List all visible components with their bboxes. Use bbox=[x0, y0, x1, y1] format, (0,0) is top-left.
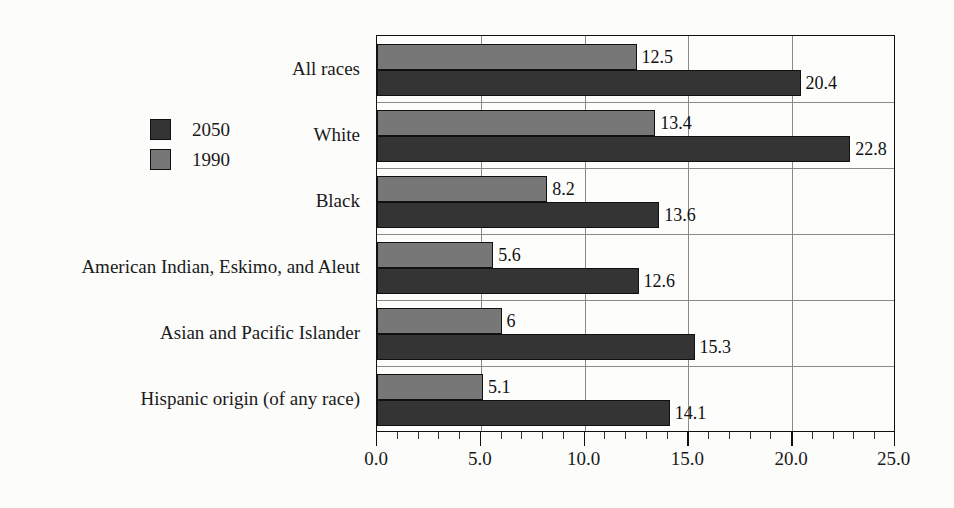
bar-2050-black[interactable] bbox=[377, 202, 659, 228]
bar-2050-white[interactable] bbox=[377, 136, 850, 162]
xtick-minor-17 bbox=[729, 432, 730, 439]
category-label-all-races: All races bbox=[0, 59, 368, 78]
bar-1990-all-races[interactable] bbox=[377, 44, 637, 70]
bar-value-1990-hispanic: 5.1 bbox=[483, 374, 511, 400]
xtick-label-10: 10.0 bbox=[567, 449, 600, 468]
plot-area: 12.5 20.4 13.4 22.8 8.2 13.6 5.6 12.6 bbox=[376, 35, 895, 432]
xtick-minor-4 bbox=[459, 432, 460, 439]
bar-2050-american-indian[interactable] bbox=[377, 268, 639, 294]
xtick-minor-3 bbox=[438, 432, 439, 439]
xtick-minor-8 bbox=[542, 432, 543, 439]
xtick-minor-23 bbox=[853, 432, 854, 439]
bar-value-2050-white: 22.8 bbox=[850, 136, 887, 162]
x-axis: 0.0 5.0 10.0 15.0 20.0 25.0 bbox=[376, 432, 895, 502]
bar-2050-hispanic[interactable] bbox=[377, 400, 670, 426]
xtick-minor-24 bbox=[874, 432, 875, 439]
category-axis-labels: All races White Black American Indian, E… bbox=[0, 35, 368, 432]
xtick-major-15 bbox=[687, 432, 688, 446]
bar-group-black: 8.2 13.6 bbox=[377, 168, 894, 234]
xtick-label-5: 5.0 bbox=[468, 449, 492, 468]
xtick-label-25: 25.0 bbox=[877, 449, 910, 468]
bar-group-hispanic: 5.1 14.1 bbox=[377, 366, 894, 432]
bar-value-2050-american-indian: 12.6 bbox=[639, 268, 676, 294]
category-label-american-indian: American Indian, Eskimo, and Aleut bbox=[0, 257, 368, 276]
xtick-minor-18 bbox=[750, 432, 751, 439]
xtick-minor-16 bbox=[708, 432, 709, 439]
xtick-minor-2 bbox=[418, 432, 419, 439]
bar-1990-white[interactable] bbox=[377, 110, 655, 136]
category-label-white: White bbox=[0, 125, 368, 144]
bar-1990-asian-pacific[interactable] bbox=[377, 308, 502, 334]
xtick-minor-6 bbox=[501, 432, 502, 439]
bar-value-2050-hispanic: 14.1 bbox=[670, 400, 707, 426]
category-label-black: Black bbox=[0, 191, 368, 210]
xtick-label-15: 15.0 bbox=[671, 449, 704, 468]
xtick-label-0: 0.0 bbox=[364, 449, 388, 468]
bar-group-american-indian: 5.6 12.6 bbox=[377, 234, 894, 300]
xtick-major-20 bbox=[791, 432, 792, 446]
bar-chart: 2050 1990 All races White Black American… bbox=[0, 0, 954, 508]
bar-value-1990-american-indian: 5.6 bbox=[493, 242, 521, 268]
bar-value-1990-asian-pacific: 6 bbox=[502, 308, 516, 334]
bar-value-1990-black: 8.2 bbox=[547, 176, 575, 202]
xtick-minor-1 bbox=[397, 432, 398, 439]
bar-1990-american-indian[interactable] bbox=[377, 242, 493, 268]
xtick-minor-11 bbox=[604, 432, 605, 439]
bar-2050-asian-pacific[interactable] bbox=[377, 334, 695, 360]
xtick-major-0 bbox=[376, 432, 377, 446]
bar-group-white: 13.4 22.8 bbox=[377, 102, 894, 168]
bar-value-2050-all-races: 20.4 bbox=[801, 70, 838, 96]
xtick-label-20: 20.0 bbox=[775, 449, 808, 468]
xtick-major-5 bbox=[480, 432, 481, 446]
bar-value-1990-white: 13.4 bbox=[655, 110, 692, 136]
xtick-major-10 bbox=[584, 432, 585, 446]
xtick-minor-9 bbox=[563, 432, 564, 439]
bar-value-2050-asian-pacific: 15.3 bbox=[695, 334, 732, 360]
bar-1990-black[interactable] bbox=[377, 176, 547, 202]
xtick-minor-7 bbox=[521, 432, 522, 439]
xtick-major-25 bbox=[894, 432, 895, 446]
bar-2050-all-races[interactable] bbox=[377, 70, 801, 96]
xtick-minor-13 bbox=[646, 432, 647, 439]
xtick-minor-12 bbox=[625, 432, 626, 439]
bar-group-all-races: 12.5 20.4 bbox=[377, 36, 894, 102]
bar-value-2050-black: 13.6 bbox=[659, 202, 696, 228]
bar-value-1990-all-races: 12.5 bbox=[637, 44, 674, 70]
xtick-minor-19 bbox=[770, 432, 771, 439]
bar-group-asian-pacific: 6 15.3 bbox=[377, 300, 894, 366]
bar-1990-hispanic[interactable] bbox=[377, 374, 483, 400]
xtick-minor-14 bbox=[667, 432, 668, 439]
xtick-minor-21 bbox=[812, 432, 813, 439]
category-label-asian-pacific: Asian and Pacific Islander bbox=[0, 323, 368, 342]
category-label-hispanic: Hispanic origin (of any race) bbox=[0, 389, 368, 408]
xtick-minor-22 bbox=[833, 432, 834, 439]
